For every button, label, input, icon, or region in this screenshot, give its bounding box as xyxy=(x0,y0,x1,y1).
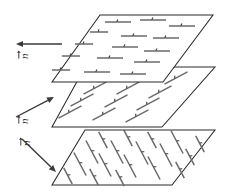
figure-container: nnn xyxy=(0,0,226,196)
director-shaft xyxy=(16,100,48,117)
plane-bottom-group xyxy=(52,130,215,186)
director-label-group: n xyxy=(17,50,30,59)
director-label-group: n xyxy=(19,137,32,146)
director-middle: n xyxy=(16,97,54,124)
director-label: n xyxy=(18,118,30,124)
layered-planes-diagram: nnn xyxy=(0,0,226,196)
director-bottom: n xyxy=(19,137,56,172)
vector-accent-head xyxy=(17,50,21,52)
director-label: n xyxy=(20,140,32,146)
director-top: n xyxy=(16,41,62,59)
director-label: n xyxy=(18,53,30,59)
director-arrowhead xyxy=(16,41,23,47)
director-label-group: n xyxy=(17,115,30,124)
vector-accent-head xyxy=(19,137,23,139)
director-vectors: nnn xyxy=(16,41,62,172)
